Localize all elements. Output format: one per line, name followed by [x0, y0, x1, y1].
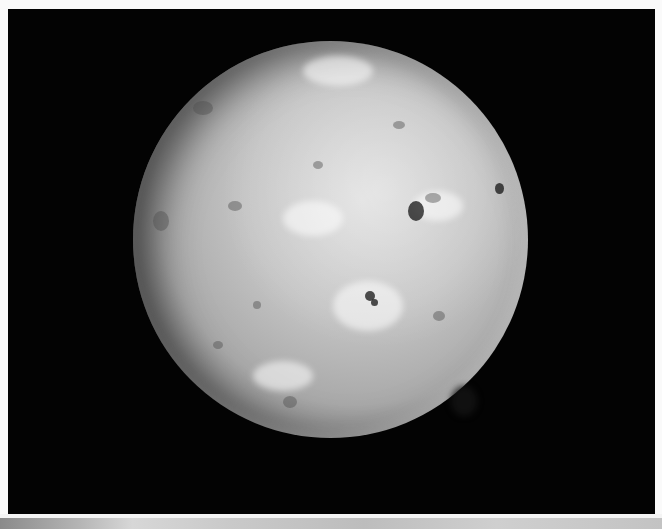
bright-region: [333, 281, 403, 331]
crater: [408, 201, 424, 221]
crater: [495, 183, 504, 194]
photo-frame: [8, 9, 655, 514]
dark-patch: [451, 386, 477, 416]
dark-patch: [253, 301, 261, 309]
bright-region: [303, 56, 373, 86]
dark-patch: [283, 396, 297, 408]
dark-patch: [213, 341, 223, 349]
dark-patch: [313, 161, 323, 169]
dark-patch: [153, 211, 169, 231]
moon: [133, 41, 528, 438]
dark-patch: [393, 121, 405, 129]
dark-patch: [433, 311, 445, 321]
bright-region: [253, 361, 313, 391]
crater: [425, 193, 441, 203]
bright-region: [283, 201, 343, 236]
crater: [371, 299, 378, 306]
dark-patch: [228, 201, 242, 211]
dark-patch: [193, 101, 213, 115]
torn-edge-strip: [0, 518, 662, 529]
